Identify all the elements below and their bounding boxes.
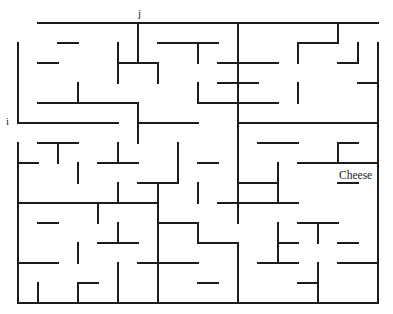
maze-goal-label: Cheese (339, 170, 372, 182)
maze-start-label: i (6, 116, 9, 127)
maze-container: i j Cheese (0, 0, 393, 314)
maze-drawing (0, 0, 393, 314)
maze-top-entry-label: j (138, 8, 141, 19)
